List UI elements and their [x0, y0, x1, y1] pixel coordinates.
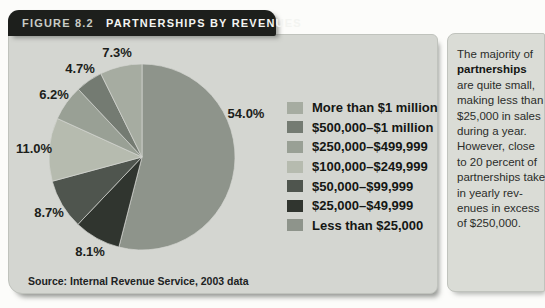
figure-title: PARTNERSHIPS BY REVENUES: [106, 17, 302, 29]
sidebar-note-text: The majority ofpartnershipsare quite sma…: [448, 34, 544, 232]
sidebar-note: The majority ofpartnershipsare quite sma…: [447, 33, 545, 292]
source-note: Source: Internal Revenue Service, 2003 d…: [28, 275, 249, 287]
pie-percent-label-5: 4.7%: [65, 61, 95, 76]
legend-swatch-icon: [287, 200, 303, 212]
figure-box: FIGURE 8.2 PARTNERSHIPS BY REVENUES More…: [8, 10, 438, 294]
legend-swatch-icon: [287, 219, 303, 231]
legend-row-4: $50,000–$99,999: [287, 176, 438, 196]
pie-percent-label-4: 6.2%: [39, 87, 69, 102]
legend-label: $250,000–$499,999: [312, 139, 428, 154]
legend-label: $50,000–$99,999: [312, 179, 413, 194]
pie-percent-label-6: 7.3%: [102, 45, 132, 60]
sidebar-note-line-4: $25,000 in sales: [457, 109, 542, 124]
figure-title-tab: FIGURE 8.2 PARTNERSHIPS BY REVENUES: [8, 10, 276, 36]
legend-label: $500,000–$1 million: [312, 120, 433, 135]
sidebar-note-line-10: enues in excess: [457, 201, 542, 216]
legend-row-1: $500,000–$1 million: [287, 118, 438, 138]
pie-chart: [49, 64, 235, 250]
legend: More than $1 million$500,000–$1 million$…: [287, 98, 438, 235]
legend-label: $25,000–$49,999: [312, 198, 413, 213]
pie-percent-label-0: 54.0%: [228, 106, 265, 121]
legend-label: More than $1 million: [312, 100, 438, 115]
sidebar-note-line-11: of $250,000.: [457, 216, 542, 231]
pie-percent-label-1: 8.1%: [75, 244, 105, 259]
legend-swatch-icon: [287, 161, 303, 173]
chart-region: More than $1 million$500,000–$1 million$…: [8, 10, 438, 294]
legend-row-3: $100,000–$249,999: [287, 157, 438, 177]
sidebar-note-line-1: partnerships: [457, 62, 542, 77]
legend-label: Less than $25,000: [312, 218, 423, 233]
legend-label: $100,000–$249,999: [312, 159, 428, 174]
legend-row-5: $25,000–$49,999: [287, 196, 438, 216]
sidebar-note-line-3: making less than: [457, 93, 542, 108]
sidebar-note-line-0: The majority of: [457, 47, 542, 62]
sidebar-note-line-6: However, close: [457, 139, 542, 154]
legend-row-0: More than $1 million: [287, 98, 438, 118]
figure-number-label: FIGURE 8.2: [22, 17, 94, 29]
pie-percent-label-2: 8.7%: [34, 205, 64, 220]
sidebar-note-line-5: during a year.: [457, 124, 542, 139]
legend-row-2: $250,000–$499,999: [287, 137, 438, 157]
sidebar-note-line-9: in yearly rev-: [457, 186, 542, 201]
legend-row-6: Less than $25,000: [287, 216, 438, 236]
legend-swatch-icon: [287, 121, 303, 133]
legend-swatch-icon: [287, 141, 303, 153]
sidebar-note-line-8: partnerships take: [457, 170, 542, 185]
legend-swatch-icon: [287, 102, 303, 114]
legend-swatch-icon: [287, 180, 303, 192]
sidebar-note-line-2: are quite small,: [457, 78, 542, 93]
pie-percent-label-3: 11.0%: [16, 141, 52, 156]
sidebar-note-line-7: to 20 percent of: [457, 155, 542, 170]
